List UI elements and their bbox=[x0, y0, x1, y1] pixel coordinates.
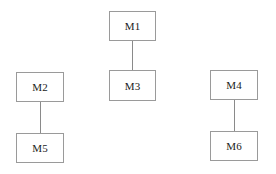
edge-m4-m6 bbox=[234, 100, 235, 131]
edge-m1-m3 bbox=[132, 41, 133, 70]
node-label: M5 bbox=[32, 142, 47, 154]
node-label: M4 bbox=[226, 79, 241, 91]
node-m1: M1 bbox=[109, 11, 156, 41]
node-label: M2 bbox=[32, 81, 47, 93]
node-label: M6 bbox=[226, 140, 241, 152]
node-m6: M6 bbox=[210, 131, 258, 161]
node-m2: M2 bbox=[16, 72, 64, 102]
node-label: M1 bbox=[125, 20, 140, 32]
edge-m2-m5 bbox=[40, 101, 41, 133]
node-label: M3 bbox=[125, 80, 140, 92]
node-m5: M5 bbox=[16, 133, 64, 163]
node-m3: M3 bbox=[109, 70, 156, 101]
node-m4: M4 bbox=[210, 70, 258, 100]
